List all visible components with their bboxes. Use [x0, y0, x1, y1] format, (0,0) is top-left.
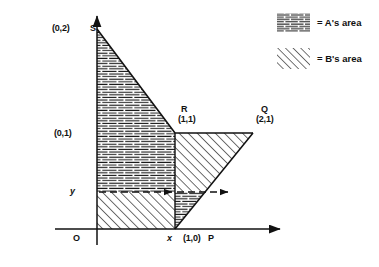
x-tick-1-label: (1,0) [183, 233, 201, 243]
region-b-upper-right [175, 20, 265, 192]
point-label-q-coord: (2,1) [256, 114, 274, 124]
legend-swatches [277, 13, 310, 69]
x-var-label: x [167, 233, 172, 243]
shaded-regions [97, 20, 265, 237]
legend-label-a: = A's area [317, 17, 361, 28]
origin-label: O [73, 233, 80, 243]
region-b-lower-left [97, 192, 175, 237]
legend-swatch-a [277, 13, 310, 32]
point-label-r-coord: (1,1) [178, 114, 196, 124]
y-var-label: y [70, 186, 75, 196]
point-label-r: R [181, 104, 187, 114]
point-label-q: Q [261, 104, 268, 114]
point-label-p: P [208, 233, 214, 243]
y-tick-1-label: (0,1) [54, 128, 72, 138]
point-label-s: S [90, 23, 96, 33]
legend-label-b: = B's area [317, 53, 362, 64]
point-label-s-coord: (0,2) [52, 23, 70, 33]
region-a-lower-right [175, 192, 265, 237]
legend-swatch-b [277, 48, 310, 69]
